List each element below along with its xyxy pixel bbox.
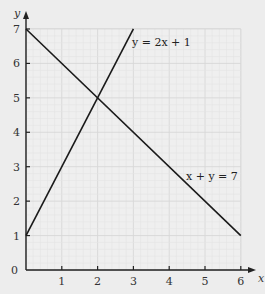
x-tick-label: 1	[58, 275, 65, 288]
x-tick-label: 3	[130, 275, 137, 288]
x-tick-label: 4	[166, 275, 173, 288]
y-axis-label: y	[13, 7, 21, 20]
y-tick-label: 6	[13, 57, 20, 70]
x-tick-label: 2	[94, 275, 101, 288]
y-axis-arrow-icon	[23, 11, 29, 19]
x-axis-label: x	[258, 272, 265, 285]
y-tick-label: 4	[13, 126, 20, 139]
y-tick-label: 7	[13, 23, 20, 36]
x-tick-label: 5	[202, 275, 209, 288]
grid	[26, 29, 241, 270]
label-y-equals-2x-plus-1: y = 2x + 1	[131, 36, 191, 49]
y-tick-label: 5	[13, 92, 20, 105]
y-tick-label: 2	[13, 195, 20, 208]
y-tick-label: 3	[13, 161, 20, 174]
label-x-plus-y-equals-7: x + y = 7	[186, 170, 238, 183]
x-axis-arrow-icon	[248, 267, 256, 273]
x-tick-label: 6	[237, 275, 244, 288]
chart: 12345612345670xy y = 2x + 1x + y = 7	[0, 0, 265, 294]
origin-label: 0	[11, 264, 18, 277]
y-tick-label: 1	[13, 230, 20, 243]
